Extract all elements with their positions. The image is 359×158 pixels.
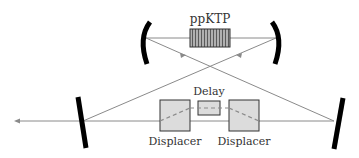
displacer-right bbox=[229, 100, 259, 131]
flat-mirror-left bbox=[78, 97, 86, 148]
flat-mirror-right bbox=[334, 98, 343, 149]
curved-mirror-right bbox=[272, 22, 279, 64]
delay-label: Delay bbox=[193, 85, 225, 98]
displacer-left bbox=[160, 100, 190, 131]
delay-element bbox=[198, 101, 220, 115]
curved-mirror-left bbox=[143, 22, 150, 64]
optical-diagram: ppKTP Delay Displacer Displacer bbox=[0, 0, 359, 158]
ppktp-label: ppKTP bbox=[190, 12, 230, 26]
displacer-left-label: Displacer bbox=[148, 135, 202, 148]
ppktp-crystal bbox=[190, 29, 230, 47]
output-arrow-icon bbox=[14, 119, 20, 124]
beam-direction-arrow-icon bbox=[180, 53, 186, 58]
displacer-right-label: Displacer bbox=[217, 135, 271, 148]
